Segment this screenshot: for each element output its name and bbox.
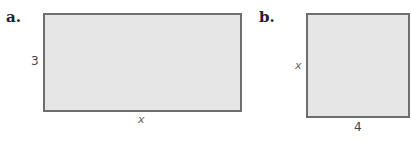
figure-a-width-label: x <box>138 114 145 125</box>
figure-a-height-label: 3 <box>31 55 39 67</box>
figure-a-rectangle <box>43 13 242 112</box>
figure-a-label: a. <box>6 10 21 25</box>
figure-b-rectangle <box>306 13 410 118</box>
figure-b-height-label: x <box>295 60 302 71</box>
figure-b-label: b. <box>259 10 275 25</box>
figure-b-width-label: 4 <box>354 121 362 133</box>
